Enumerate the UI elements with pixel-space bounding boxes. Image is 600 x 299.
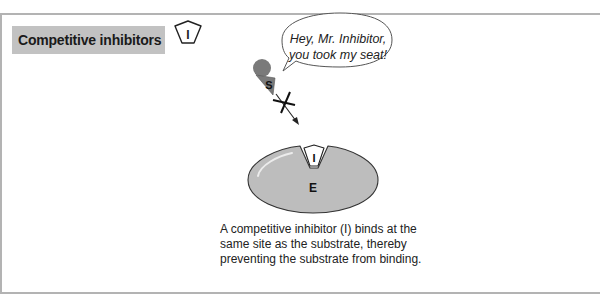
caption: A competitive inhibitor (I) binds at the… <box>220 222 440 267</box>
inhibitor-icon-label: I <box>186 28 189 42</box>
inhibitor-label: I <box>312 152 315 164</box>
speech-line-1: Hey, Mr. Inhibitor, <box>258 31 418 47</box>
caption-line-3: preventing the substrate from binding. <box>220 252 440 267</box>
enzyme: I E <box>248 145 378 213</box>
caption-line-2: same site as the substrate, thereby <box>220 237 440 252</box>
inhibitor-icon: I <box>175 21 201 43</box>
speech-line-2: you took my seat! <box>258 47 418 63</box>
substrate-label: S <box>265 79 272 91</box>
substrate-molecule: S <box>253 59 275 95</box>
caption-line-1: A competitive inhibitor (I) binds at the <box>220 222 440 237</box>
enzyme-label: E <box>309 181 317 195</box>
speech-bubble-text: Hey, Mr. Inhibitor, you took my seat! <box>258 31 418 63</box>
blocked-arrow <box>273 92 299 125</box>
